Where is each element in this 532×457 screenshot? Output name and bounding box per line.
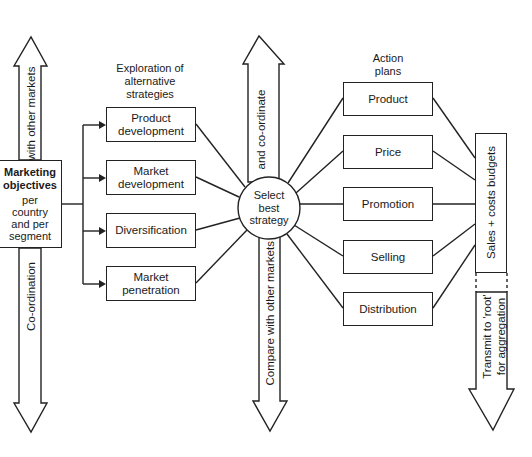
left-up-arrow-label: with other markets	[25, 55, 38, 173]
action-promotion: Promotion	[343, 187, 433, 221]
middle-down-arrow-label: Compare with other markets	[264, 250, 277, 386]
transmit-label-line2: for aggregation	[495, 287, 508, 387]
action-distribution: Distribution	[343, 292, 433, 326]
exploration-heading: Exploration of alternative strategies	[108, 62, 192, 101]
action-plans-heading: Action plans	[370, 52, 406, 78]
action-selling: Selling	[343, 240, 433, 274]
strategy-market-development: Market development	[106, 160, 196, 195]
strategy-product-development: Product development	[106, 107, 196, 142]
diagram-lines	[0, 0, 532, 457]
action-price: Price	[343, 135, 433, 169]
action-product: Product	[343, 82, 433, 116]
sales-costs-budgets-label: Sales + costs budgets	[485, 143, 498, 263]
strategy-market-penetration: Market penetration	[106, 266, 196, 301]
marketing-objectives-box: Marketing objectives per country and per…	[0, 160, 62, 248]
objectives-sub: per country and per segment	[0, 194, 61, 242]
strategy-diversification: Diversification	[106, 213, 196, 248]
select-best-strategy-label: Select best strategy	[242, 189, 296, 227]
left-down-arrow-label: Co-ordination	[25, 248, 38, 346]
transmit-label-line1: Transmit to 'root'	[481, 287, 494, 387]
middle-up-arrow-label: and co-ordinate	[255, 82, 268, 178]
